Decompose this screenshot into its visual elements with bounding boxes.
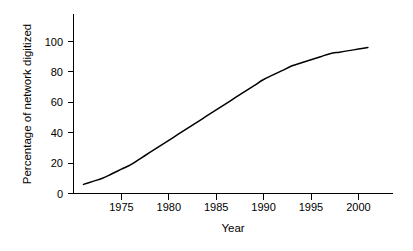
x-tick-label: 1990 — [251, 201, 275, 213]
y-tick-label: 0 — [57, 188, 63, 200]
x-tick-label: 2000 — [346, 201, 370, 213]
y-tick-label: 100 — [45, 36, 63, 48]
y-tick-label: 80 — [51, 66, 63, 78]
x-tick-label: 1980 — [157, 201, 181, 213]
x-tick-label: 1995 — [299, 201, 323, 213]
y-tick-label: 60 — [51, 96, 63, 108]
x-tick-label: 1975 — [109, 201, 133, 213]
y-tick-label: 40 — [51, 127, 63, 139]
chart-figure: 0 20 40 60 80 100 1975 1980 1985 1990 19… — [0, 0, 413, 251]
x-tick-label: 1985 — [204, 201, 228, 213]
x-axis-title: Year — [221, 222, 244, 234]
y-axis-title: Percentage of network digitized — [21, 24, 33, 184]
line-chart: 0 20 40 60 80 100 1975 1980 1985 1990 19… — [0, 0, 413, 251]
y-tick-label: 20 — [51, 157, 63, 169]
